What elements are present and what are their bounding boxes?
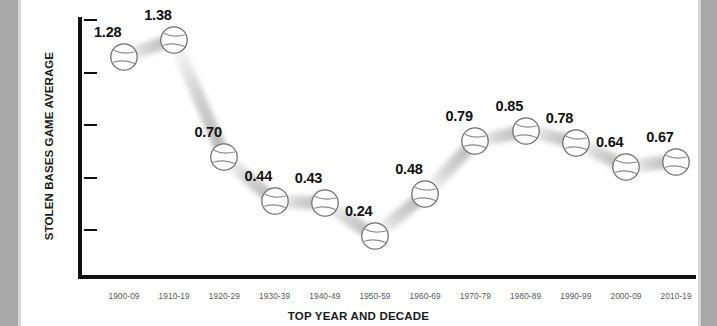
- x-tick-label-1910-19: 1910-19: [148, 291, 200, 301]
- x-tick-label-2000-09: 2000-09: [600, 291, 652, 301]
- trail-segment: [122, 33, 176, 62]
- data-point-value-label: 1.28: [94, 24, 121, 40]
- y-axis-tick-2: [84, 124, 97, 126]
- data-point-marker: [360, 221, 390, 251]
- chart-page: STOLEN BASES GAME AVERAGE 1.28 1.38 0.70…: [0, 0, 717, 326]
- data-point-value-label: 0.85: [496, 98, 523, 114]
- y-axis-title: STOLEN BASES GAME AVERAGE: [43, 31, 55, 261]
- data-point-marker: [410, 179, 440, 209]
- x-tick-label-1940-49: 1940-49: [299, 291, 351, 301]
- data-point-marker: [260, 186, 290, 216]
- left-edge-band-inner: [18, 0, 21, 326]
- data-point-value-label: 0.79: [445, 108, 472, 124]
- trail-segment: [420, 137, 480, 199]
- data-point-marker: [511, 116, 541, 146]
- trail-segment: [573, 137, 629, 173]
- data-point-marker: [109, 42, 139, 72]
- data-point-marker: [561, 128, 591, 158]
- y-axis-tick-1: [84, 72, 97, 74]
- x-tick-label-1960-69: 1960-69: [399, 291, 451, 301]
- data-point-marker: [159, 25, 189, 55]
- x-axis-line: [78, 275, 696, 279]
- x-tick-label-1930-39: 1930-39: [249, 291, 301, 301]
- trail-segment: [321, 198, 378, 242]
- x-tick-label-1920-29: 1920-29: [198, 291, 250, 301]
- data-point-marker: [661, 147, 691, 177]
- x-tick-label-1950-59: 1950-59: [349, 291, 401, 301]
- y-axis-tick-0: [84, 19, 97, 21]
- trail-segment: [168, 37, 230, 159]
- trail-segment: [474, 124, 527, 147]
- trail-segment: [220, 152, 279, 206]
- data-point-value-label: 0.48: [395, 161, 422, 177]
- data-point-value-label: 0.67: [646, 129, 673, 145]
- y-axis-tick-4: [84, 229, 97, 231]
- data-point-marker: [209, 142, 239, 172]
- trail-segment: [274, 195, 325, 210]
- data-point-value-label: 0.64: [596, 134, 623, 150]
- trail-segment: [371, 189, 429, 240]
- left-edge-band: [0, 0, 18, 326]
- trail-segment: [625, 155, 677, 173]
- y-axis-line: [78, 17, 82, 279]
- x-tick-label-1980-89: 1980-89: [500, 291, 552, 301]
- data-point-value-label: 0.43: [295, 170, 322, 186]
- x-tick-label-1990-99: 1990-99: [550, 291, 602, 301]
- right-edge-band: [701, 0, 717, 326]
- data-point-marker: [460, 126, 490, 156]
- x-tick-label-1900-09: 1900-09: [98, 291, 150, 301]
- y-axis-tick-3: [84, 177, 97, 179]
- trail-segment: [524, 124, 577, 149]
- data-point-value-label: 0.44: [245, 168, 272, 184]
- x-axis-title: TOP YEAR AND DECADE: [0, 310, 717, 322]
- data-point-marker: [611, 152, 641, 182]
- data-point-value-label: 0.78: [546, 110, 573, 126]
- right-edge-band-inner: [698, 0, 701, 326]
- data-point-value-label: 1.38: [144, 7, 171, 23]
- x-tick-label-2010-19: 2010-19: [650, 291, 702, 301]
- data-point-marker: [310, 188, 340, 218]
- data-point-value-label: 0.70: [194, 124, 221, 140]
- x-tick-label-1970-79: 1970-79: [449, 291, 501, 301]
- data-point-value-label: 0.24: [345, 203, 372, 219]
